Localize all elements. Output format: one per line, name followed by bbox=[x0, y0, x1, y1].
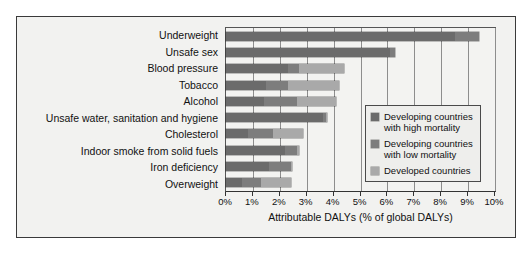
stacked-bar[interactable] bbox=[226, 48, 395, 57]
legend-swatch-icon bbox=[371, 167, 379, 175]
stacked-bar[interactable] bbox=[226, 97, 336, 106]
bar-segment bbox=[226, 178, 242, 187]
bar-segment bbox=[297, 97, 336, 106]
bar-segment bbox=[288, 81, 339, 90]
stacked-bar[interactable] bbox=[226, 146, 299, 155]
category-label: Overweight bbox=[17, 176, 224, 193]
bar-segment bbox=[299, 64, 345, 73]
bar-segment bbox=[226, 32, 455, 41]
bar-segment bbox=[264, 97, 298, 106]
x-axis-title: Attributable DALYs (% of global DALYs) bbox=[225, 211, 496, 223]
x-tick-label: 8% bbox=[433, 196, 447, 207]
bar-segment bbox=[297, 146, 298, 155]
x-axis: 0%1%2%3%4%5%6%7%8%9%10% bbox=[225, 192, 496, 210]
bar-segment bbox=[226, 48, 390, 57]
category-label: Unsafe sex bbox=[17, 44, 224, 61]
bar-segment bbox=[226, 146, 285, 155]
bar-segment bbox=[285, 146, 297, 155]
bar-segment bbox=[226, 113, 323, 122]
bar-segment bbox=[226, 129, 248, 138]
legend-swatch-icon bbox=[371, 140, 379, 148]
gridline bbox=[495, 28, 496, 191]
stacked-bar[interactable] bbox=[226, 81, 339, 90]
stacked-bar[interactable] bbox=[226, 162, 292, 171]
category-label: Iron deficiency bbox=[17, 159, 224, 176]
bar-segment bbox=[288, 64, 299, 73]
bar-segment bbox=[269, 162, 291, 171]
stacked-bar[interactable] bbox=[226, 113, 327, 122]
category-label: Cholesterol bbox=[17, 126, 224, 143]
bar-segment bbox=[226, 97, 264, 106]
category-label: Unsafe water, sanitation and hygiene bbox=[17, 110, 224, 127]
category-label: Tobacco bbox=[17, 77, 224, 94]
legend-label: Developed countries bbox=[384, 165, 471, 176]
legend-item[interactable]: Developed countries bbox=[371, 165, 473, 176]
legend-label: Developing countries with high mortality bbox=[384, 111, 473, 133]
bar-row bbox=[226, 44, 495, 60]
x-tick-label: 2% bbox=[272, 196, 286, 207]
legend-label: Developing countries with low mortality bbox=[384, 138, 473, 160]
legend-item[interactable]: Developing countries with high mortality bbox=[371, 111, 473, 133]
chart-plot-area: UnderweightUnsafe sexBlood pressureTobac… bbox=[17, 17, 515, 237]
category-label: Underweight bbox=[17, 27, 224, 44]
chart-legend: Developing countries with high mortality… bbox=[365, 105, 481, 182]
x-tick-label: 9% bbox=[460, 196, 474, 207]
bar-segment bbox=[455, 32, 479, 41]
bar-segment bbox=[390, 48, 395, 57]
bar-segment bbox=[248, 129, 274, 138]
x-tick-label: 10% bbox=[484, 196, 503, 207]
stacked-bar[interactable] bbox=[226, 64, 344, 73]
legend-item[interactable]: Developing countries with low mortality bbox=[371, 138, 473, 160]
bar-row bbox=[226, 28, 495, 44]
x-tick-label: 1% bbox=[245, 196, 259, 207]
bar-row bbox=[226, 77, 495, 93]
stacked-bar[interactable] bbox=[226, 129, 303, 138]
category-label: Blood pressure bbox=[17, 60, 224, 77]
bar-segment bbox=[291, 162, 292, 171]
stacked-bar[interactable] bbox=[226, 178, 291, 187]
x-tick-label: 5% bbox=[353, 196, 367, 207]
bar-segment bbox=[226, 81, 266, 90]
x-tick-label: 0% bbox=[218, 196, 232, 207]
x-tick-label: 3% bbox=[299, 196, 313, 207]
bar-segment bbox=[326, 113, 327, 122]
stacked-bar[interactable] bbox=[226, 32, 479, 41]
x-tick-label: 4% bbox=[326, 196, 340, 207]
bar-segment bbox=[261, 178, 291, 187]
category-axis: UnderweightUnsafe sexBlood pressureTobac… bbox=[17, 27, 224, 192]
legend-swatch-icon bbox=[371, 113, 379, 121]
x-tick-label: 6% bbox=[380, 196, 394, 207]
category-label: Indoor smoke from solid fuels bbox=[17, 143, 224, 160]
bar-segment bbox=[242, 178, 261, 187]
bar-segment bbox=[273, 129, 303, 138]
chart-figure: UnderweightUnsafe sexBlood pressureTobac… bbox=[16, 16, 516, 238]
bar-row bbox=[226, 61, 495, 77]
bar-segment bbox=[226, 64, 288, 73]
bar-segment bbox=[226, 162, 269, 171]
category-label: Alcohol bbox=[17, 93, 224, 110]
x-tick-label: 7% bbox=[406, 196, 420, 207]
bar-segment bbox=[266, 81, 288, 90]
